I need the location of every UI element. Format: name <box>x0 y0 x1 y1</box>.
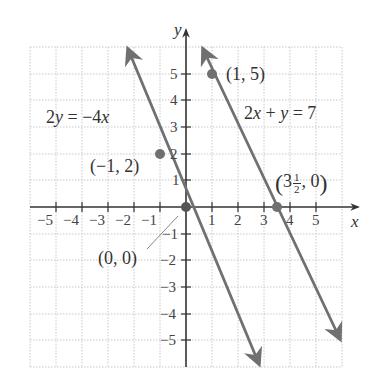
x-tick-label: 1 <box>208 213 216 228</box>
y-tick-label: −5 <box>160 333 176 348</box>
y-tick-label: −3 <box>160 280 176 295</box>
equation-label-line1: 2y = −4x <box>46 108 109 126</box>
point-origin <box>181 202 191 212</box>
x-tick-label: 3 <box>260 213 268 228</box>
point-label-origin: (0, 0) <box>98 249 137 267</box>
y-tick-label: 2 <box>170 147 178 162</box>
x-tick-label: 5 <box>312 213 320 228</box>
equation-label-line2: 2x + y = 7 <box>244 104 316 122</box>
point-label-neg1-2: (−1, 2) <box>90 157 139 175</box>
point-3half-0 <box>272 202 282 212</box>
point-label-3half-0: (312, 0) <box>275 171 328 195</box>
y-tick-label: 3 <box>170 120 178 135</box>
axes <box>30 30 358 367</box>
x-axis-label: x <box>351 213 359 230</box>
x-tick-label: −3 <box>89 213 105 228</box>
y-tick-label: 1 <box>172 173 180 188</box>
x-tick-label: −1 <box>141 213 157 228</box>
y-tick-label: 4 <box>170 93 178 108</box>
y-tick-label: 5 <box>170 67 178 82</box>
y-axis-label: y <box>174 21 182 38</box>
point-label-1-5: (1, 5) <box>226 65 265 83</box>
point-neg1-2 <box>155 149 165 159</box>
x-tick-label: 2 <box>234 213 242 228</box>
x-tick-label: 4 <box>286 213 294 228</box>
y-tick-label: −4 <box>160 307 176 322</box>
x-tick-label: −2 <box>115 213 131 228</box>
x-tick-label: −5 <box>37 213 53 228</box>
y-tick-label: −2 <box>160 253 176 268</box>
point-1-5 <box>207 69 217 79</box>
y-tick-label: −1 <box>162 227 178 242</box>
x-tick-label: −4 <box>63 213 79 228</box>
